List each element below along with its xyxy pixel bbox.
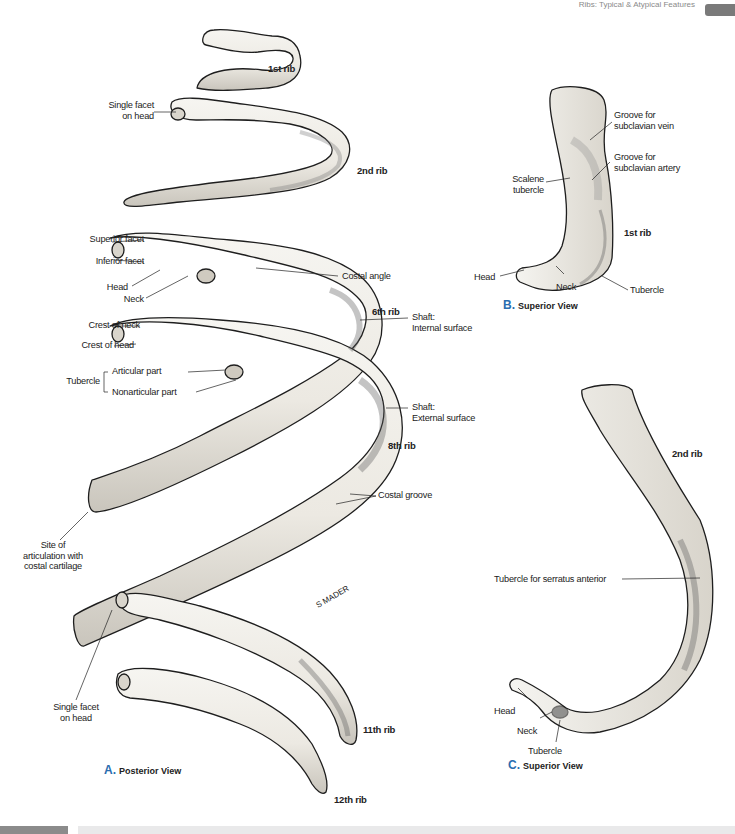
label-line: Internal surface [412,323,472,334]
label-line: Groove for [614,152,680,163]
label-line: tubercle [500,185,544,196]
view-label-b: Superior View [518,301,578,311]
label-line: External surface [412,413,475,424]
label-line: on head [44,713,108,724]
label-2nd-rib-c: 2nd rib [672,449,702,460]
label-line: Scalene [500,174,544,185]
anatomy-plate: Ribs: Typical & Atypical Features [0,0,735,834]
label-shaft-external: Shaft: External surface [412,402,475,423]
label-tubercle-b: Tubercle [630,285,664,296]
label-line: Shaft: [412,402,475,413]
view-label-a: Posterior View [119,766,181,776]
label-superior-facet: Superior facet [40,234,144,245]
label-single-facet-bottom: Single facet on head [44,702,108,723]
footer-bar [78,826,735,834]
label-11th-rib: 11th rib [363,725,395,736]
label-neck-c: Neck [517,726,537,737]
label-crest-of-head: Crest of head [40,340,134,351]
label-tubercle-c: Tubercle [528,746,562,757]
panel-a-ribs [74,30,403,794]
artist-signature: S MADER [315,584,351,610]
label-2nd-rib: 2nd rib [357,166,387,177]
label-neck: Neck [100,294,144,305]
label-6th-rib: 6th rib [372,307,400,318]
label-crest-of-neck: Crest of neck [40,320,140,331]
label-line: costal cartilage [6,561,100,572]
label-line: Shaft: [412,312,472,323]
rib-1 [197,30,301,91]
label-scalene-tubercle: Scalene tubercle [500,174,544,195]
view-caption-a: A.Posterior View [104,763,181,777]
label-nonarticular-part: Nonarticular part [112,387,177,398]
label-inferior-facet: Inferior facet [40,256,144,267]
label-site-of-articulation: Site of articulation with costal cartila… [6,540,100,572]
label-groove-subclavian-vein: Groove for subclavian vein [614,110,674,131]
label-costal-angle: Costal angle [342,271,391,282]
panel-c-rib [510,385,713,733]
footer-chip [0,826,68,834]
view-letter-a: A. [104,763,116,777]
view-letter-b: B. [503,298,515,312]
label-line: subclavian vein [614,121,674,132]
label-line: Single facet [78,100,154,111]
label-tubercle: Tubercle [40,376,100,387]
label-shaft-internal: Shaft: Internal surface [412,312,472,333]
label-12th-rib: 12th rib [334,795,367,806]
view-label-c: Superior View [523,761,583,771]
label-single-facet-top: Single facet on head [78,100,154,121]
label-1st-rib: 1st rib [268,64,295,75]
label-line: Site of [6,540,100,551]
rib-2 [124,98,350,206]
label-articular-part: Articular part [112,366,161,377]
label-neck-b: Neck [556,282,576,293]
label-head: Head [80,282,128,293]
label-head-b: Head [474,272,495,283]
label-line: Groove for [614,110,674,121]
label-8th-rib: 8th rib [388,441,416,452]
label-serratus-tubercle: Tubercle for serratus anterior [494,574,606,585]
view-letter-c: C. [508,758,520,772]
label-line: articulation with [6,551,100,562]
label-head-c: Head [494,706,515,717]
view-caption-b: B.Superior View [503,298,578,312]
label-line: subclavian artery [614,163,680,174]
label-1st-rib-b: 1st rib [624,228,651,239]
label-groove-subclavian-artery: Groove for subclavian artery [614,152,680,173]
label-line: on head [78,111,154,122]
label-line: Single facet [44,702,108,713]
view-caption-c: C.Superior View [508,758,583,772]
label-costal-groove: Costal groove [378,490,432,501]
